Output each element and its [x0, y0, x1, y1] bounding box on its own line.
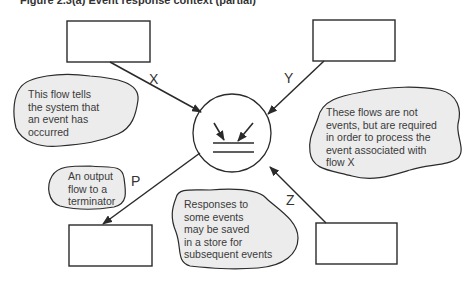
figure-caption: Figure 2.3(a) Event response context (pa…	[20, 0, 256, 6]
flow-label-z: Z	[286, 192, 295, 208]
process-bubble	[193, 94, 271, 172]
flow-label-x: X	[149, 71, 158, 87]
note-text-p: An output flow to a terminator	[68, 170, 115, 208]
terminator-top-right	[313, 20, 395, 61]
note-text-store: Responses to some events may be saved in…	[184, 198, 272, 261]
flow-y-arrow	[268, 61, 324, 114]
terminator-bottom-left	[69, 225, 152, 266]
event-response-diagram: Figure 2.3(a) Event response context (pa…	[0, 0, 471, 283]
terminator-top-left	[67, 21, 150, 62]
note-text-y: These flows are not events, but are requ…	[326, 106, 437, 169]
note-text-x: This flow tells the system that an event…	[28, 88, 99, 138]
terminator-bottom-right	[316, 223, 397, 264]
flow-label-y: Y	[284, 70, 293, 86]
flow-label-p: P	[131, 173, 140, 189]
